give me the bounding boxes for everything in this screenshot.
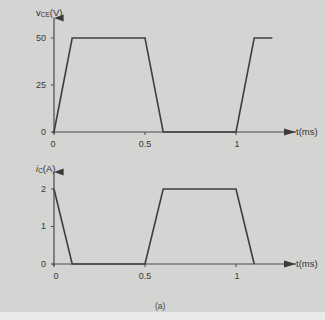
- vce-ytick-0: 0: [26, 128, 46, 137]
- vce-axis-title-unit: (V): [50, 7, 63, 18]
- ic-ytick-2: 2: [26, 185, 46, 194]
- ic-xtick-1: 1: [227, 272, 247, 281]
- ic-ytick-1: 1: [26, 222, 46, 231]
- ic-chart: [51, 172, 296, 267]
- ic-xtick-0.5: 0.5: [135, 272, 155, 281]
- vce-ytick-50: 50: [26, 34, 46, 43]
- vce-x-axis-title: t(ms): [296, 127, 318, 137]
- ic-ytick-0: 0: [26, 260, 46, 269]
- vce-xtick-0.5: 0.5: [135, 140, 155, 149]
- switching-waveform-figure: vCE(V) 50 25 0 0 0.5 1 t(ms) iC(A) 2 1 0…: [0, 0, 325, 320]
- figure-caption: (a): [155, 302, 165, 311]
- page-edge: [0, 312, 325, 320]
- vce-ytick-25: 25: [26, 81, 46, 90]
- vce-axis-title-sub: CE: [41, 11, 50, 18]
- ic-x-axis-title: t(ms): [296, 259, 318, 269]
- waveform-line: [54, 189, 254, 264]
- waveform-line: [54, 38, 272, 132]
- vce-axis-title: vCE(V): [36, 8, 62, 19]
- ic-xtick-0: 0: [46, 272, 66, 281]
- ic-axis-title-unit: (A): [43, 163, 56, 174]
- vce-chart: [51, 18, 296, 135]
- vce-xtick-0: 0: [43, 140, 63, 149]
- vce-xtick-1: 1: [227, 140, 247, 149]
- ic-axis-title: iC(A): [36, 164, 56, 175]
